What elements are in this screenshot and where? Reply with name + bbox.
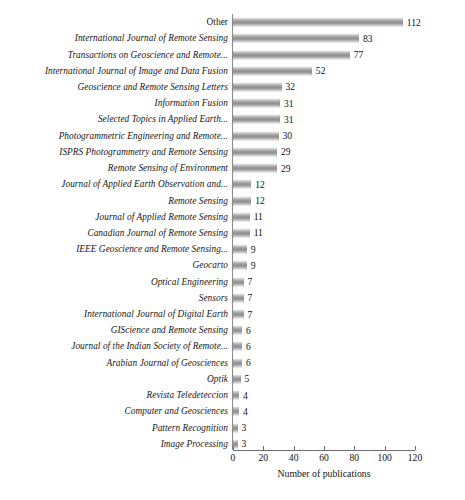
bar: 7 — [233, 310, 244, 319]
bar-row: Revista Teledeteccion4 — [0, 387, 465, 403]
bar-value-label: 4 — [243, 406, 248, 416]
bar-value-label: 5 — [245, 374, 250, 384]
bar: 112 — [233, 18, 403, 27]
bar-value-label: 83 — [363, 33, 373, 43]
bar-value-label: 4 — [243, 390, 248, 400]
bar-row: Selected Topics in Applied Earth...31 — [0, 111, 465, 127]
category-label: Journal of Applied Earth Observation and… — [0, 179, 232, 190]
category-label: GIScience and Remote Sensing — [0, 325, 232, 336]
category-label: Information Fusion — [0, 98, 232, 109]
bar-value-label: 3 — [242, 439, 247, 449]
category-label: Journal of Applied Remote Sensing — [0, 211, 232, 222]
bar-fill — [233, 131, 279, 140]
axis-tick — [263, 446, 264, 450]
bar-fill — [233, 261, 247, 270]
x-axis-title: Number of publications — [233, 468, 415, 480]
category-label: Optik — [0, 373, 232, 384]
bar-value-label: 7 — [248, 309, 253, 319]
bar: 5 — [233, 374, 241, 383]
publications-bar-chart: Other112International Journal of Remote … — [0, 0, 465, 500]
bar-row: Journal of Applied Earth Observation and… — [0, 176, 465, 192]
category-label: Image Processing — [0, 438, 232, 449]
category-label: Canadian Journal of Remote Sensing — [0, 227, 232, 238]
category-label: Computer and Geosciences — [0, 406, 232, 417]
bar: 6 — [233, 326, 242, 335]
category-label: International Journal of Remote Sensing — [0, 33, 232, 44]
axis-tick-label: 80 — [350, 452, 360, 464]
bar-fill — [233, 147, 277, 156]
bar-fill — [233, 342, 242, 351]
bar: 4 — [233, 391, 239, 400]
bar-fill — [233, 18, 403, 27]
bar-value-label: 7 — [248, 277, 253, 287]
bar-fill — [233, 374, 241, 383]
bar-fill — [233, 34, 359, 43]
bar-fill — [233, 407, 239, 416]
bar: 32 — [233, 82, 282, 91]
bar-row: Optical Engineering7 — [0, 274, 465, 290]
bar-fill — [233, 66, 312, 75]
bar-fill — [233, 180, 251, 189]
bar-value-label: 31 — [284, 114, 294, 124]
bar-row: ISPRS Photogrammetry and Remote Sensing2… — [0, 144, 465, 160]
bar-value-label: 3 — [242, 423, 247, 433]
bar-value-label: 9 — [251, 244, 256, 254]
bar-value-label: 6 — [246, 341, 251, 351]
bar-value-label: 11 — [254, 228, 263, 238]
bar-value-label: 7 — [248, 293, 253, 303]
bar-row: GIScience and Remote Sensing6 — [0, 322, 465, 338]
bar-row: Canadian Journal of Remote Sensing11 — [0, 225, 465, 241]
bar-row: Other112 — [0, 14, 465, 30]
bar-row: Sensors7 — [0, 290, 465, 306]
bar-value-label: 30 — [283, 131, 293, 141]
bar-fill — [233, 50, 350, 59]
bar-rows: Other112International Journal of Remote … — [0, 14, 465, 452]
bar: 83 — [233, 34, 359, 43]
bar-row: Geoscience and Remote Sensing Letters32 — [0, 79, 465, 95]
bar: 3 — [233, 423, 238, 432]
axis-tick — [354, 446, 355, 450]
bar-fill — [233, 228, 250, 237]
bar-fill — [233, 245, 247, 254]
bar-fill — [233, 358, 242, 367]
category-label: Journal of the Indian Society of Remote.… — [0, 341, 232, 352]
category-label: Optical Engineering — [0, 276, 232, 287]
bar-row: Remote Sensing of Environment29 — [0, 160, 465, 176]
bar-value-label: 6 — [246, 358, 251, 368]
bar: 52 — [233, 66, 312, 75]
axis-tick — [385, 446, 386, 450]
axis-tick-label: 60 — [319, 452, 329, 464]
bar: 29 — [233, 164, 277, 173]
plot-area: Other112International Journal of Remote … — [0, 0, 465, 452]
bar: 6 — [233, 342, 242, 351]
bar-value-label: 31 — [284, 98, 294, 108]
bar: 31 — [233, 115, 280, 124]
bar-value-label: 29 — [281, 147, 291, 157]
bar-value-label: 112 — [407, 17, 421, 27]
axis-tick-label: 20 — [259, 452, 269, 464]
axis-tick — [294, 446, 295, 450]
bar-value-label: 12 — [255, 179, 265, 189]
axis-tick-label: 0 — [231, 452, 236, 464]
axis-tick — [324, 446, 325, 450]
bar-row: Journal of the Indian Society of Remote.… — [0, 338, 465, 354]
bar: 9 — [233, 245, 247, 254]
bar-fill — [233, 310, 244, 319]
bar-row: Optik5 — [0, 371, 465, 387]
bar: 11 — [233, 228, 250, 237]
bar-fill — [233, 82, 282, 91]
category-label: Sensors — [0, 292, 232, 303]
bar: 9 — [233, 261, 247, 270]
category-label: International Journal of Image and Data … — [0, 65, 232, 76]
bar: 12 — [233, 196, 251, 205]
bar-row: Remote Sensing12 — [0, 192, 465, 208]
bar-fill — [233, 115, 280, 124]
bar: 12 — [233, 180, 251, 189]
category-label: Arabian Journal of Geosciences — [0, 357, 232, 368]
value-axis-line — [233, 450, 415, 451]
category-label: International Journal of Digital Earth — [0, 309, 232, 320]
category-label: Pattern Recognition — [0, 422, 232, 433]
category-label: Geoscience and Remote Sensing Letters — [0, 81, 232, 92]
bar-row: Arabian Journal of Geosciences6 — [0, 355, 465, 371]
bar-row: Computer and Geosciences4 — [0, 403, 465, 419]
